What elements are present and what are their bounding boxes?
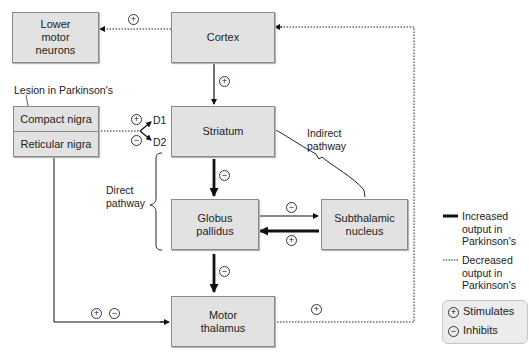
d2-label: D2 [153, 136, 166, 149]
minus-icon: − [219, 266, 230, 277]
minus-icon: − [219, 170, 230, 181]
plus-icon: + [219, 76, 230, 87]
minus-icon: − [448, 326, 459, 337]
node-reticular-nigra: Reticular nigra [14, 132, 98, 156]
legend-increased-label: Increased output in Parkinson's [462, 210, 516, 248]
lesion-label: Lesion in Parkinson's [14, 84, 113, 97]
legend-sign-box: + Stimulates − Inhibits [442, 300, 528, 344]
node-globus-pallidus: Globus pallidus [171, 199, 259, 250]
d1-label: D1 [153, 114, 166, 127]
minus-icon: − [131, 135, 142, 146]
minus-icon: − [109, 308, 120, 319]
direct-pathway-label: Direct pathway [106, 184, 145, 209]
direct-pathway-brace [150, 153, 162, 250]
plus-icon: + [131, 114, 142, 125]
lesion-pointer [26, 95, 28, 106]
plus-icon: + [91, 308, 102, 319]
node-striatum: Striatum [171, 106, 275, 157]
minus-icon: − [286, 202, 297, 213]
node-motor-thalamus: Motor thalamus [171, 296, 275, 347]
node-cortex: Cortex [171, 12, 275, 63]
edge-reticular-to-thalamus [54, 156, 167, 322]
legend-stimulates-label: Stimulates [463, 305, 514, 318]
node-subthalamic-nucleus: Subthalamic nucleus [321, 199, 408, 250]
plus-icon: + [128, 14, 139, 25]
node-substantia-nigra: Compact nigra Reticular nigra [13, 106, 99, 157]
node-lower-motor-neurons: Lower motor neurons [12, 12, 99, 63]
legend-decreased-label: Decreased output in Parkinson's [462, 254, 516, 292]
edge-thalamus-to-cortex [274, 27, 414, 322]
plus-icon: + [286, 235, 297, 246]
edge-nigra-to-d1 [140, 122, 151, 131]
indirect-pathway-label: Indirect pathway [307, 127, 346, 152]
plus-icon: + [448, 307, 459, 318]
legend-inhibits-label: Inhibits [463, 324, 498, 337]
node-compact-nigra: Compact nigra [14, 107, 98, 132]
plus-icon: + [311, 304, 322, 315]
